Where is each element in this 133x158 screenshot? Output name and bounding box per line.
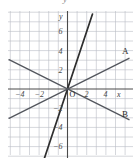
x-tick-label-4: 4 — [104, 91, 108, 99]
y-tick-label-6: 6 — [59, 28, 63, 36]
plot-canvas — [0, 0, 133, 158]
y-tick-label-4: 4 — [59, 48, 63, 56]
y-tick-label-2: 2 — [59, 67, 63, 75]
x-tick-label--4: −4 — [15, 91, 24, 99]
y-tick-label--6: −6 — [53, 143, 62, 151]
x-tick-label-2: 2 — [85, 91, 89, 99]
grid-lines — [8, 11, 133, 156]
plotted-lines — [9, 14, 129, 158]
line-label-a: A — [122, 47, 129, 56]
y-tick-label--4: −4 — [53, 124, 62, 132]
series-line-a — [9, 58, 129, 118]
axes — [8, 11, 133, 158]
x-axis-label: x — [117, 91, 121, 99]
x-tick-label--2: −2 — [35, 91, 44, 99]
y-axis-label: y — [59, 13, 63, 21]
y-tick-label--2: −2 — [53, 105, 62, 113]
origin-label: O — [70, 91, 76, 99]
series-line-b — [9, 60, 129, 120]
coordinate-plane-figure: y — [0, 0, 133, 158]
line-label-b: B — [122, 110, 128, 119]
